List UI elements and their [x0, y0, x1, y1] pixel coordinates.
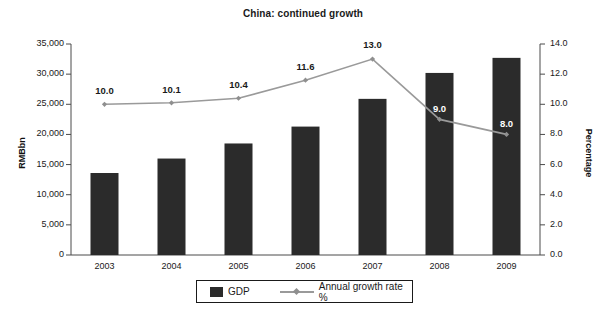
point-label-2004: 10.1 — [152, 84, 192, 95]
legend-item-growth-rate[interactable]: Annual growth rate % — [280, 281, 412, 303]
y-tick-right-10.0: 10.0 — [550, 98, 590, 108]
legend-label-growth-rate: Annual growth rate % — [319, 281, 412, 303]
x-tick-2006: 2006 — [276, 261, 336, 271]
y-tick-left-20000: 20,000 — [18, 128, 64, 138]
bar-2007 — [359, 99, 387, 255]
bar-2003 — [91, 173, 119, 255]
x-tick-2003: 2003 — [75, 261, 135, 271]
y-tick-right-0.0: 0.0 — [550, 249, 590, 259]
point-label-2003: 10.0 — [85, 85, 125, 96]
y-tick-left-35000: 35,000 — [18, 38, 64, 48]
x-tick-2009: 2009 — [477, 261, 537, 271]
y-tick-left-25000: 25,000 — [18, 98, 64, 108]
y-tick-left-5000: 5,000 — [18, 219, 64, 229]
bar-2008 — [426, 73, 454, 255]
y-tick-right-6.0: 6.0 — [550, 159, 590, 169]
chart-legend: GDP Annual growth rate % — [196, 280, 413, 303]
y-tick-left-0: 0 — [18, 249, 64, 259]
line-marker-2004 — [169, 100, 174, 105]
y-tick-right-14.0: 14.0 — [550, 38, 590, 48]
x-tick-2008: 2008 — [410, 261, 470, 271]
y-tick-right-8.0: 8.0 — [550, 128, 590, 138]
legend-label-gdp: GDP — [228, 286, 250, 297]
point-label-2007: 13.0 — [353, 39, 393, 50]
bar-2004 — [158, 159, 186, 255]
y-tick-right-12.0: 12.0 — [550, 68, 590, 78]
point-label-2009: 8.0 — [487, 118, 527, 129]
y-tick-left-30000: 30,000 — [18, 68, 64, 78]
x-tick-2005: 2005 — [209, 261, 269, 271]
line-marker-2003 — [102, 102, 107, 107]
legend-line-marker-icon — [280, 287, 313, 297]
bar-2009 — [493, 58, 521, 255]
x-tick-2007: 2007 — [343, 261, 403, 271]
point-label-2005: 10.4 — [219, 79, 259, 90]
point-label-2008: 9.0 — [420, 103, 460, 114]
y-tick-left-15000: 15,000 — [18, 159, 64, 169]
point-label-2006: 11.6 — [286, 61, 326, 72]
bar-2006 — [292, 127, 320, 255]
legend-swatch-bar-icon — [210, 287, 223, 297]
bar-2005 — [225, 143, 253, 255]
chart-container: China: continued growth RMBbn Percentage… — [0, 0, 606, 318]
line-marker-2005 — [236, 96, 241, 101]
y-tick-left-10000: 10,000 — [18, 189, 64, 199]
y-tick-right-4.0: 4.0 — [550, 189, 590, 199]
line-marker-2006 — [303, 78, 308, 83]
y-tick-right-2.0: 2.0 — [550, 219, 590, 229]
x-tick-2004: 2004 — [142, 261, 202, 271]
legend-item-gdp[interactable]: GDP — [210, 286, 250, 297]
